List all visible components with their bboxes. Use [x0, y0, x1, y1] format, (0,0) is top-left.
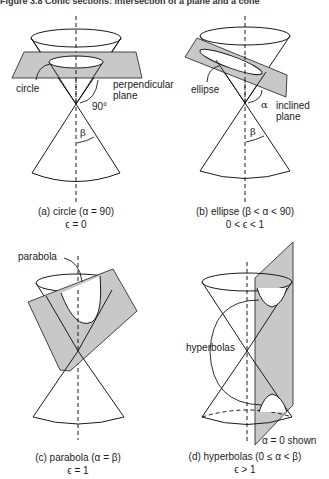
label-alpha-zero-shown: α = 0 shown	[262, 435, 316, 446]
conic-sections-diagram: circle perpendicular plane 90° β (a) cir…	[0, 0, 329, 479]
parabola-pointer-arrow	[64, 258, 82, 282]
panel-c-parabola: parabola (c) parabola (α = β) ϵ = 1	[18, 251, 137, 476]
caption-a-line2: ϵ = 0	[65, 219, 87, 230]
panel-a-circle: circle perpendicular plane 90° β (a) cir…	[12, 16, 174, 230]
label-alpha: α	[261, 99, 268, 110]
label-circle: circle	[16, 83, 40, 94]
panel-d-hyperbolas: hyperbolas α = 0 shown (d) hyperbolas (0…	[186, 242, 316, 475]
label-parabola: parabola	[18, 251, 57, 262]
caption-c-line1: (c) parabola (α = β)	[35, 452, 121, 463]
top-cone-rim	[200, 27, 290, 45]
label-inclined: inclined	[276, 100, 310, 111]
label-plane: plane	[276, 111, 301, 122]
alpha-arc	[248, 90, 262, 103]
label-hyperbolas: hyperbolas	[186, 342, 235, 353]
label-90-degrees: 90°	[92, 101, 107, 112]
label-plane: plane	[113, 90, 138, 101]
vertical-plane	[255, 242, 293, 445]
caption-b-line2: 0 < ϵ < 1	[226, 219, 265, 230]
label-perpendicular: perpendicular	[113, 79, 174, 90]
caption-a-line1: (a) circle (α = 90)	[38, 206, 114, 217]
label-beta: β	[80, 127, 86, 138]
panel-b-ellipse: ellipse α inclined plane β (b) ellipse (…	[185, 16, 310, 230]
caption-b-line1: (b) ellipse (β < α < 90)	[196, 206, 294, 217]
label-beta: β	[250, 126, 256, 137]
label-ellipse: ellipse	[191, 84, 220, 95]
caption-c-line2: ϵ = 1	[67, 465, 89, 476]
caption-d-line1: (d) hyperbolas (0 ≤ α < β)	[189, 451, 302, 462]
caption-d-line2: ϵ > 1	[234, 464, 256, 475]
